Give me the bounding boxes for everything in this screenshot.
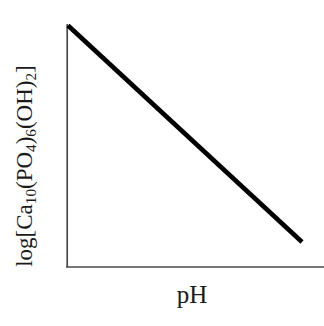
y-axis-label-sub-4: 4	[22, 144, 39, 152]
y-axis-label: log[Ca10(PO4)6(OH)2]	[0, 0, 46, 326]
plot-area	[0, 0, 324, 326]
y-axis-label-mid-oh: (OH)	[12, 81, 37, 130]
x-axis-label: pH	[67, 282, 317, 307]
chart-figure: log[Ca10(PO4)6(OH)2] pH	[0, 0, 324, 326]
data-line-hydroxyapatite	[68, 26, 302, 243]
y-axis-label-suffix: ]	[12, 65, 37, 73]
y-axis-label-prefix: log[Ca	[12, 204, 37, 267]
y-axis-label-mid-po: (PO	[12, 152, 37, 189]
y-axis-label-sub-6: 6	[22, 129, 39, 137]
y-axis-label-sub-2: 2	[22, 73, 39, 81]
y-axis-label-sub-10: 10	[22, 189, 39, 204]
